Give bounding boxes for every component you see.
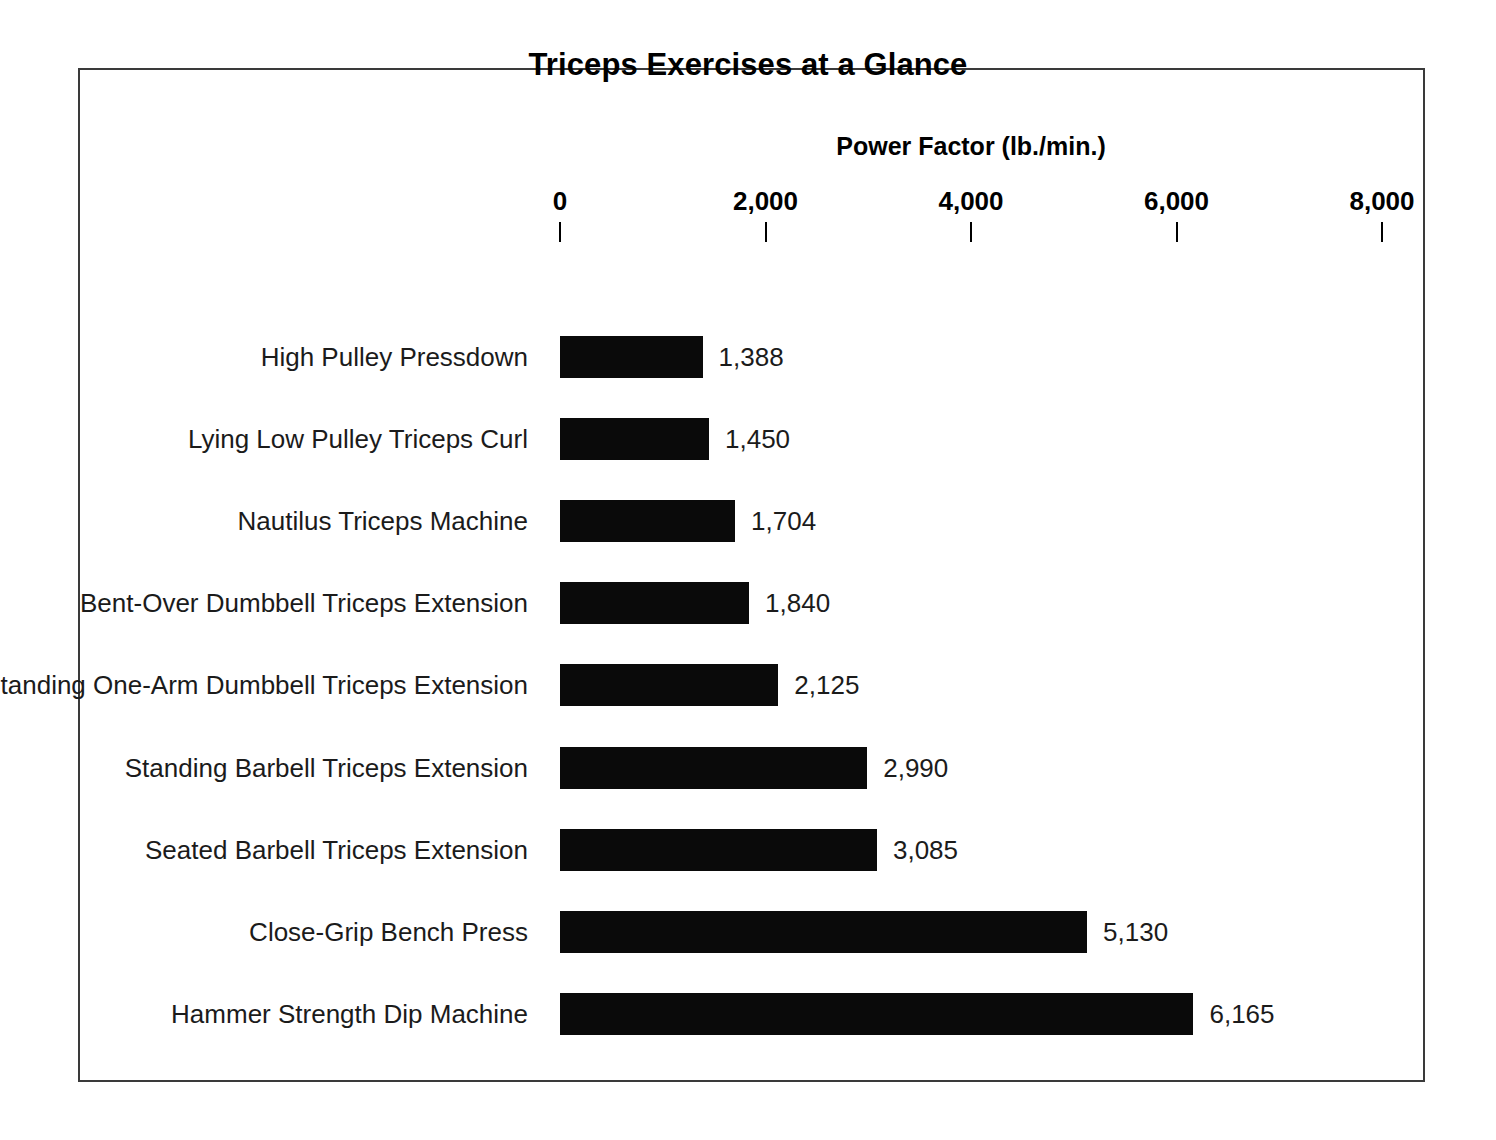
bar-row: Hammer Strength Dip Machine6,165 xyxy=(0,993,1496,1035)
bar xyxy=(560,500,735,542)
bar-row: Lying Low Pulley Triceps Curl1,450 xyxy=(0,418,1496,460)
category-label: Standing One-Arm Dumbbell Triceps Extens… xyxy=(0,670,528,701)
bar xyxy=(560,993,1193,1035)
bar xyxy=(560,336,703,378)
bar xyxy=(560,418,709,460)
bar-value-label: 2,990 xyxy=(883,752,948,783)
bar xyxy=(560,911,1087,953)
bar-row: Standing Barbell Triceps Extension2,990 xyxy=(0,747,1496,789)
category-label: Bent-Over Dumbbell Triceps Extension xyxy=(80,588,528,619)
bar-row: Seated Barbell Triceps Extension3,085 xyxy=(0,829,1496,871)
bar-value-label: 2,125 xyxy=(794,670,859,701)
category-label: Seated Barbell Triceps Extension xyxy=(145,834,528,865)
bar-value-label: 3,085 xyxy=(893,834,958,865)
category-label: Close-Grip Bench Press xyxy=(249,916,528,947)
bar xyxy=(560,829,877,871)
bar-value-label: 6,165 xyxy=(1209,998,1274,1029)
bar-row: Nautilus Triceps Machine1,704 xyxy=(0,500,1496,542)
bar-row: Bent-Over Dumbbell Triceps Extension1,84… xyxy=(0,582,1496,624)
category-label: Hammer Strength Dip Machine xyxy=(171,998,528,1029)
bar xyxy=(560,747,867,789)
chart-page: Triceps Exercises at a Glance Power Fact… xyxy=(0,0,1496,1140)
category-label: High Pulley Pressdown xyxy=(261,342,528,373)
bar-row: High Pulley Pressdown1,388 xyxy=(0,336,1496,378)
bar-value-label: 1,840 xyxy=(765,588,830,619)
bar xyxy=(560,664,778,706)
bar-row: Standing One-Arm Dumbbell Triceps Extens… xyxy=(0,664,1496,706)
bar-rows: High Pulley Pressdown1,388Lying Low Pull… xyxy=(0,0,1496,1140)
category-label: Lying Low Pulley Triceps Curl xyxy=(188,424,528,455)
bar-value-label: 1,450 xyxy=(725,424,790,455)
bar-value-label: 1,704 xyxy=(751,506,816,537)
bar xyxy=(560,582,749,624)
category-label: Nautilus Triceps Machine xyxy=(238,506,528,537)
bar-value-label: 5,130 xyxy=(1103,916,1168,947)
bar-row: Close-Grip Bench Press5,130 xyxy=(0,911,1496,953)
category-label: Standing Barbell Triceps Extension xyxy=(125,752,528,783)
bar-value-label: 1,388 xyxy=(719,342,784,373)
